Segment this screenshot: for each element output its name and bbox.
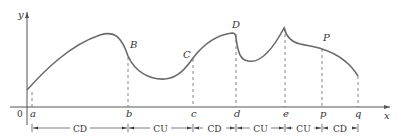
- interval-label-e-p: CU: [296, 124, 311, 134]
- tick-labels: a b c d e p q: [30, 108, 361, 119]
- concavity-diagram: y x 0 B C D P a b c d e p q: [0, 0, 397, 139]
- interval-label-a-b: CD: [73, 124, 87, 134]
- dashed-guides: [32, 28, 358, 107]
- axes: y x 0: [10, 9, 390, 125]
- tick-label-d: d: [234, 108, 240, 119]
- interval-label-p-q: CD: [333, 124, 347, 134]
- point-label-D: D: [231, 19, 240, 30]
- x-axis-label: x: [384, 110, 390, 121]
- y-axis-arrow-icon: [25, 12, 29, 18]
- tick-label-p: p: [320, 108, 327, 119]
- point-labels: B C D P: [129, 19, 330, 60]
- tick-label-e: e: [283, 108, 289, 119]
- origin-label: 0: [17, 109, 23, 119]
- interval-label-c-d: CD: [207, 124, 221, 134]
- tick-label-a: a: [30, 108, 36, 119]
- tick-label-b: b: [126, 108, 132, 119]
- interval-label-d-e: CU: [253, 124, 268, 134]
- interval-label-b-c: CU: [153, 124, 168, 134]
- interval-brackets: CD CU CD CU CU CD: [32, 124, 358, 134]
- y-axis-label: y: [17, 9, 24, 20]
- tick-label-c: c: [191, 108, 197, 119]
- point-label-P: P: [322, 32, 330, 43]
- x-axis-arrow-icon: [384, 105, 390, 109]
- function-curve: [27, 28, 358, 90]
- point-label-C: C: [183, 49, 191, 60]
- point-label-B: B: [129, 39, 137, 50]
- tick-label-q: q: [355, 108, 361, 119]
